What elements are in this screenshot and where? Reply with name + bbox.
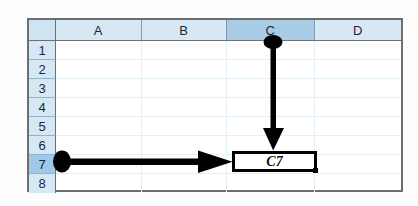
row-header-8-label: 8 (38, 176, 45, 191)
column-header-d[interactable]: D (315, 20, 401, 41)
selected-cell-c7[interactable]: C7 (232, 151, 317, 172)
cell-b4[interactable] (142, 98, 227, 116)
cell-a5[interactable] (56, 117, 142, 135)
table-row (56, 41, 401, 60)
cell-c3[interactable] (227, 79, 315, 97)
row-header-2[interactable]: 2 (29, 60, 56, 79)
cell-a1[interactable] (56, 41, 142, 59)
row-header-6[interactable]: 6 (29, 136, 56, 155)
cell-b7[interactable] (142, 155, 227, 173)
cell-c1[interactable] (227, 41, 315, 59)
spreadsheet-grid: A B C D 1 2 3 4 (27, 18, 403, 192)
column-header-b[interactable]: B (142, 20, 227, 41)
row-header-column: 1 2 3 4 5 6 7 8 (29, 41, 56, 190)
cell-d7[interactable] (315, 155, 401, 173)
fill-handle[interactable] (313, 168, 318, 173)
cell-a3[interactable] (56, 79, 142, 97)
row-header-7-label: 7 (38, 157, 45, 172)
table-row (56, 60, 401, 79)
row-header-8[interactable]: 8 (29, 174, 56, 193)
cell-d4[interactable] (315, 98, 401, 116)
cell-b5[interactable] (142, 117, 227, 135)
row-header-1-label: 1 (38, 43, 45, 58)
cell-b3[interactable] (142, 79, 227, 97)
cell-a6[interactable] (56, 136, 142, 154)
row-header-4[interactable]: 4 (29, 98, 56, 117)
cell-d2[interactable] (315, 60, 401, 78)
column-header-row: A B C D (29, 20, 401, 41)
cell-b2[interactable] (142, 60, 227, 78)
row-header-3-label: 3 (38, 81, 45, 96)
column-header-d-label: D (353, 23, 363, 38)
cell-a7[interactable] (56, 155, 142, 173)
cell-b1[interactable] (142, 41, 227, 59)
cell-reference-label: C7 (266, 155, 282, 169)
row-header-5[interactable]: 5 (29, 117, 56, 136)
cell-d8[interactable] (315, 174, 401, 193)
cell-d3[interactable] (315, 79, 401, 97)
row-header-4-label: 4 (38, 100, 45, 115)
table-row (56, 117, 401, 136)
cell-b6[interactable] (142, 136, 227, 154)
cell-c2[interactable] (227, 60, 315, 78)
table-row (56, 136, 401, 155)
table-row (56, 98, 401, 117)
row-header-1[interactable]: 1 (29, 41, 56, 60)
column-header-c[interactable]: C (227, 20, 315, 41)
cell-c4[interactable] (227, 98, 315, 116)
column-header-b-label: B (179, 23, 188, 38)
cell-a2[interactable] (56, 60, 142, 78)
screenshot-canvas: A B C D 1 2 3 4 (0, 0, 418, 206)
table-row (56, 174, 401, 193)
cell-area (56, 41, 401, 190)
row-header-7[interactable]: 7 (29, 155, 56, 174)
table-row (56, 155, 401, 174)
select-all-corner[interactable] (29, 20, 56, 41)
row-header-3[interactable]: 3 (29, 79, 56, 98)
row-header-5-label: 5 (38, 119, 45, 134)
column-header-c-label: C (265, 23, 275, 38)
cell-c8[interactable] (227, 174, 315, 193)
cell-d6[interactable] (315, 136, 401, 154)
row-header-2-label: 2 (38, 62, 45, 77)
column-header-a[interactable]: A (56, 20, 142, 41)
cell-d1[interactable] (315, 41, 401, 59)
cell-a8[interactable] (56, 174, 142, 193)
cell-c5[interactable] (227, 117, 315, 135)
table-row (56, 79, 401, 98)
cell-b8[interactable] (142, 174, 227, 193)
cell-a4[interactable] (56, 98, 142, 116)
cell-d5[interactable] (315, 117, 401, 135)
row-header-6-label: 6 (38, 138, 45, 153)
column-header-a-label: A (94, 23, 103, 38)
